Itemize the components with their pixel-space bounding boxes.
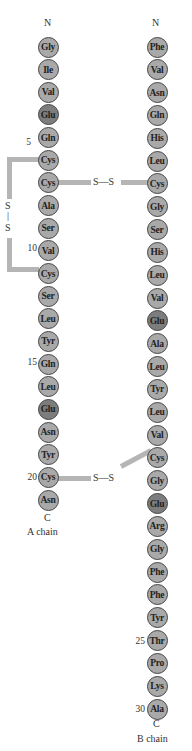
b_chain-residue-7: Cys (147, 173, 168, 194)
a_chain-residue-15: Gln (38, 354, 59, 375)
disulfide-a7-b7-right (121, 180, 148, 185)
b-chain-n-terminus: N (152, 17, 159, 28)
a_chain-residue-13: Leu (38, 308, 59, 329)
b_chain-residue-3: Asn (147, 82, 168, 103)
b_chain-residue-1: Phe (147, 37, 168, 58)
b_chain-residue-20: Gly (147, 470, 168, 491)
b_chain-residue-12: Val (147, 288, 168, 309)
b-chain-label: B chain (137, 733, 168, 744)
a_chain-residue-17: Glu (38, 399, 59, 420)
a_chain-residue-18: Asn (38, 422, 59, 443)
disulfide-a20-b19-label: S—S (93, 472, 114, 483)
a_chain-residue-8: Ala (38, 195, 59, 216)
disulfide-a7-b7-left (58, 180, 91, 185)
a-chain-number-5: 5 (17, 137, 31, 147)
a_chain-residue-9: Ser (38, 218, 59, 239)
b_chain-residue-23: Gly (147, 539, 168, 560)
b_chain-residue-29: Lys (147, 676, 168, 697)
disulfide-a20-b19-left (58, 476, 91, 481)
b_chain-residue-25: Phe (147, 584, 168, 605)
a_chain-residue-1: Gly (38, 37, 59, 58)
a_chain-residue-10: Val (38, 240, 59, 261)
a_chain-residue-3: Val (38, 82, 59, 103)
a-chain-number-20: 20 (21, 472, 37, 482)
b-chain-c-terminus: C (153, 718, 160, 729)
b_chain-residue-5: His (147, 128, 168, 149)
b_chain-residue-2: Val (147, 59, 168, 80)
b_chain-residue-11: Leu (147, 265, 168, 286)
b_chain-residue-8: Gly (147, 196, 168, 217)
disulfide-bracket-bottom (7, 267, 39, 272)
b_chain-residue-26: Tyr (147, 607, 168, 628)
b_chain-residue-24: Phe (147, 562, 168, 583)
a_chain-residue-19: Tyr (38, 444, 59, 465)
disulfide-a7-b7-label: S—S (93, 176, 114, 187)
b_chain-residue-19: Cys (147, 447, 168, 468)
b_chain-residue-28: Pro (147, 653, 168, 674)
a-chain-number-10: 10 (21, 243, 37, 253)
b_chain-residue-10: His (147, 242, 168, 263)
disulfide-bond-line: | (7, 210, 9, 221)
a_chain-residue-11: Cys (38, 263, 59, 284)
a_chain-residue-4: Glu (38, 104, 59, 125)
b_chain-residue-27: Thr (147, 630, 168, 651)
a-chain-label: A chain (27, 526, 58, 537)
disulfide-s-bottom: S (5, 222, 11, 233)
b-chain-number-25: 25 (129, 636, 145, 646)
a_chain-residue-2: Ile (38, 59, 59, 80)
b_chain-residue-9: Ser (147, 219, 168, 240)
b_chain-residue-17: Leu (147, 402, 168, 423)
b_chain-residue-4: Gln (147, 105, 168, 126)
b-chain-number-30: 30 (129, 704, 145, 714)
a-chain-c-terminus: C (44, 512, 51, 523)
a_chain-residue-7: Cys (38, 172, 59, 193)
b_chain-residue-22: Arg (147, 516, 168, 537)
disulfide-bracket-upper (7, 157, 12, 199)
a_chain-residue-5: Gln (38, 127, 59, 148)
b_chain-residue-6: Leu (147, 151, 168, 172)
a_chain-residue-21: Asn (38, 490, 59, 511)
b_chain-residue-21: Glu (147, 493, 168, 514)
a_chain-residue-12: Ser (38, 286, 59, 307)
a_chain-residue-16: Leu (38, 376, 59, 397)
b_chain-residue-15: Leu (147, 356, 168, 377)
b_chain-residue-30: Ala (147, 699, 168, 720)
a_chain-residue-6: Cys (38, 150, 59, 171)
b_chain-residue-13: Glu (147, 310, 168, 331)
b_chain-residue-18: Val (147, 425, 168, 446)
a_chain-residue-14: Tyr (38, 331, 59, 352)
a-chain-n-terminus: N (44, 17, 51, 28)
a-chain-number-15: 15 (21, 357, 37, 367)
b_chain-residue-16: Tyr (147, 379, 168, 400)
b_chain-residue-14: Ala (147, 333, 168, 354)
a_chain-residue-20: Cys (38, 467, 59, 488)
